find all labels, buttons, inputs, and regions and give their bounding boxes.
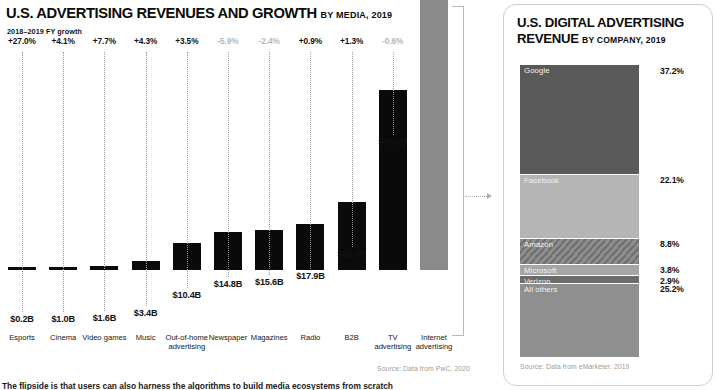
bar-value-label: $3.4B <box>115 308 177 318</box>
stack-segment-amazon: Amazon <box>520 238 639 264</box>
panel-title-subtitle: BY COMPANY, 2019 <box>582 35 666 45</box>
stack-segment-google: Google <box>520 65 639 174</box>
bar-value-label: $70.6B <box>362 137 424 147</box>
article-body-text: The flipside is that users can also harn… <box>2 381 472 390</box>
stack-segment-percent: 37.2% <box>660 66 684 76</box>
bar-value-label: $10.4B <box>156 290 218 300</box>
stack-segment-verizon: Verizon <box>520 275 639 283</box>
source-note-left: Source: Data from PwC, 2020 <box>377 365 470 372</box>
connector-arrow-icon <box>487 193 492 199</box>
bar-internet-advertising <box>420 0 448 270</box>
bars-area: $0.2B$1.0B$1.6B$3.4B$10.4B$14.8B$15.6B$1… <box>0 0 498 330</box>
leader-line <box>104 52 105 311</box>
leader-line <box>393 52 394 135</box>
leader-line <box>146 52 147 306</box>
leader-line <box>269 52 270 275</box>
leader-line <box>63 52 64 312</box>
internet-bar-bracket <box>452 6 464 336</box>
leader-line <box>187 52 188 288</box>
infographic-root: U.S. ADVERTISING REVENUES AND GROWTH BY … <box>0 0 716 390</box>
panel-title: U.S. DIGITAL ADVERTISING REVENUE BY COMP… <box>517 15 705 48</box>
stack-segment-label: Amazon <box>524 240 553 249</box>
leader-line <box>310 52 311 269</box>
leader-line <box>22 52 23 312</box>
bar-value-label: $17.9B <box>279 271 341 281</box>
stack-segment-label: Facebook <box>524 176 559 185</box>
digital-ad-revenue-panel: U.S. DIGITAL ADVERTISING REVENUE BY COMP… <box>503 4 713 386</box>
connector-dotted-line <box>465 196 487 197</box>
leader-line <box>352 52 353 247</box>
stack-segment-label: Microsoft <box>524 266 557 275</box>
stack-segment-label: All others <box>524 285 558 294</box>
stack-segment-all-others: All others <box>520 283 639 357</box>
stack-segment-microsoft: Microsoft <box>520 264 639 275</box>
stack-segment-percent: 8.8% <box>660 239 679 249</box>
stack-segment-percent: 22.1% <box>660 175 684 185</box>
stack-segment-label: Google <box>524 66 550 75</box>
stack-segment-percent: 3.8% <box>660 265 679 275</box>
media-revenue-chart: U.S. ADVERTISING REVENUES AND GROWTH BY … <box>0 0 498 390</box>
stacked-bar: Google37.2%Facebook22.1%Amazon8.8%Micros… <box>520 65 639 357</box>
bar-value-label: $26.5B <box>321 249 383 259</box>
leader-line <box>228 52 229 277</box>
stack-segment-facebook: Facebook <box>520 174 639 239</box>
source-note-right: Source: Data from eMarketer, 2019 <box>520 363 629 370</box>
x-axis-labels: EsportsCinemaVideo gamesMusicOut-of-home… <box>0 333 498 367</box>
x-axis-label: Internet advertising <box>410 333 458 352</box>
stack-segment-percent: 25.2% <box>660 284 684 294</box>
